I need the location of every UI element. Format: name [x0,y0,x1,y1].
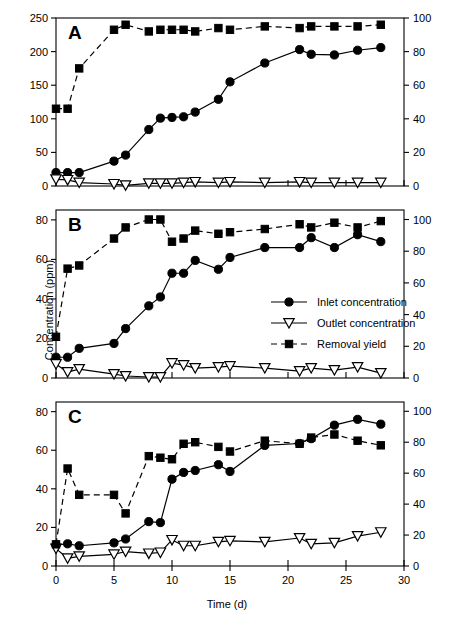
y-tick-label-right: 0 [413,180,419,192]
data-point-removal-yield-14 [308,23,315,30]
data-point-inlet-concentration-11 [226,253,234,261]
y-tick-label-right: 100 [413,12,431,24]
y-tick-label-left: 250 [30,12,48,24]
y-axis-right-label-wrap: Removal yield (%) [436,170,454,450]
data-point-inlet-concentration-3 [110,157,118,165]
data-point-removal-yield-2 [76,262,83,269]
y-axis-left-label-wrap: Concentration (ppm) [0,170,18,450]
data-point-inlet-concentration-6 [156,114,164,122]
data-point-removal-yield-3 [110,491,117,498]
panel-letter-a: A [68,22,82,43]
data-point-inlet-concentration-8 [180,113,188,121]
data-point-inlet-concentration-12 [261,59,269,67]
data-point-inlet-concentration-8 [180,468,188,476]
data-point-legend-0-legend [285,298,293,306]
data-point-inlet-concentration-1 [64,540,72,548]
data-point-inlet-concentration-16 [354,415,362,423]
data-point-removal-yield-0 [52,105,59,112]
data-point-inlet-concentration-10 [214,95,222,103]
data-point-removal-yield-4 [122,510,129,517]
data-point-removal-yield-8 [180,440,187,447]
y-tick-label-right: 0 [413,372,419,384]
data-point-removal-yield-17 [377,217,384,224]
data-point-removal-yield-6 [157,26,164,33]
data-point-inlet-concentration-16 [354,231,362,239]
data-point-removal-yield-9 [192,28,199,35]
data-point-inlet-concentration-1 [64,353,72,361]
data-point-inlet-concentration-13 [296,243,304,251]
data-point-removal-yield-9 [192,439,199,446]
data-point-removal-yield-15 [331,219,338,226]
data-point-removal-yield-13 [296,221,303,228]
data-point-inlet-concentration-14 [307,234,315,242]
data-point-outlet-concentration-17 [376,369,386,378]
data-point-inlet-concentration-16 [354,46,362,54]
panel-b-plot: 020406080020406080100BInlet concentratio… [0,196,454,392]
data-point-removal-yield-16 [354,437,361,444]
data-point-removal-yield-17 [377,21,384,28]
data-point-removal-yield-10 [215,443,222,450]
data-point-removal-yield-8 [180,235,187,242]
data-point-inlet-concentration-5 [145,125,153,133]
data-point-inlet-concentration-15 [330,51,338,59]
data-point-inlet-concentration-6 [156,518,164,526]
series-removal-yield [52,431,384,548]
data-point-removal-yield-3 [110,26,117,33]
data-point-outlet-concentration-8 [178,361,188,370]
y-tick-label-right: 60 [413,467,425,479]
legend-label-2: Removal yield [317,338,386,350]
data-point-removal-yield-14 [308,224,315,231]
data-point-inlet-concentration-13 [296,45,304,53]
panel-b: 020406080020406080100BInlet concentratio… [0,196,454,392]
series-inlet-concentration [52,43,385,176]
data-point-inlet-concentration-7 [168,475,176,483]
data-point-inlet-concentration-5 [145,302,153,310]
data-point-inlet-concentration-2 [75,344,83,352]
data-point-outlet-concentration-0 [51,360,61,369]
y-tick-label-right: 100 [413,214,431,226]
data-point-inlet-concentration-7 [168,113,176,121]
data-point-removal-yield-5 [145,216,152,223]
data-point-removal-yield-6 [157,216,164,223]
figure-container: 050100150200250020406080100A 02040608002… [0,0,454,621]
data-point-inlet-concentration-10 [214,461,222,469]
data-point-inlet-concentration-15 [330,243,338,251]
data-point-removal-yield-12 [261,225,268,232]
plot-frame [56,18,404,186]
data-point-inlet-concentration-9 [191,466,199,474]
data-point-inlet-concentration-7 [168,269,176,277]
data-point-inlet-concentration-14 [307,50,315,58]
y-tick-label-right: 20 [413,340,425,352]
legend-label-0: Inlet concentration [317,296,407,308]
data-point-inlet-concentration-15 [330,421,338,429]
data-point-inlet-concentration-17 [377,238,385,246]
data-point-removal-yield-16 [354,23,361,30]
data-point-removal-yield-9 [192,227,199,234]
data-point-inlet-concentration-6 [156,293,164,301]
data-point-removal-yield-0 [52,541,59,548]
data-point-inlet-concentration-3 [110,339,118,347]
data-point-removal-yield-16 [354,224,361,231]
y-tick-label-left: 0 [42,180,48,192]
panel-letter-c: C [68,406,82,427]
y-tick-label-left: 40 [36,483,48,495]
x-tick-label: 10 [166,574,178,586]
data-point-outlet-concentration-1 [62,554,72,563]
y-tick-label-right: 100 [413,405,431,417]
data-point-removal-yield-15 [331,23,338,30]
data-point-inlet-concentration-8 [180,269,188,277]
y-tick-label-right: 80 [413,436,425,448]
data-point-inlet-concentration-10 [214,265,222,273]
data-point-outlet-concentration-16 [352,532,362,541]
data-point-removal-yield-6 [157,454,164,461]
x-tick-label: 15 [224,574,236,586]
y-tick-label-right: 80 [413,46,425,58]
data-point-inlet-concentration-9 [191,256,199,264]
data-point-inlet-concentration-4 [122,535,130,543]
y-axis-left-label: Concentration (ppm) [43,260,55,360]
y-tick-label-left: 80 [36,214,48,226]
data-point-inlet-concentration-17 [377,43,385,51]
data-point-removal-yield-7 [168,26,175,33]
panel-a-plot: 050100150200250020406080100A [0,0,454,200]
panel-c: 020406080020406080100051015202530C [0,388,454,584]
